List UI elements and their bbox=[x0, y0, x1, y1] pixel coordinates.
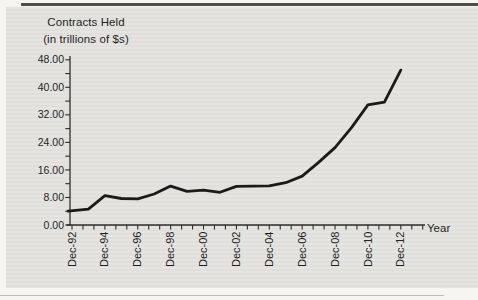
data-line-contracts-held bbox=[68, 70, 401, 211]
x-tick-label: Dec-02 bbox=[230, 232, 242, 267]
chart-canvas: 0.008.0016.0024.0032.0040.0048.00Dec-92D… bbox=[0, 0, 478, 300]
x-tick-label: Dec-08 bbox=[329, 232, 341, 267]
x-tick-label: Dec-94 bbox=[98, 232, 110, 267]
y-tick-label: 32.00 bbox=[38, 108, 64, 120]
x-tick-label: Dec-92 bbox=[66, 232, 78, 267]
x-tick-label: Dec-10 bbox=[362, 232, 374, 267]
x-axis-title: Year bbox=[427, 222, 450, 234]
x-tick-label: Dec-96 bbox=[131, 232, 143, 267]
y-tick-label: 16.00 bbox=[38, 164, 64, 176]
scan-artifact-line bbox=[0, 295, 444, 297]
y-tick-label: 8.00 bbox=[44, 191, 65, 203]
x-tick-label: Dec-04 bbox=[263, 232, 275, 267]
y-tick-label: 40.00 bbox=[38, 81, 64, 93]
y-tick-label: 24.00 bbox=[38, 136, 64, 148]
x-tick-label: Dec-06 bbox=[296, 232, 308, 267]
y-tick-label: 48.00 bbox=[38, 53, 64, 65]
x-tick-label: Dec-00 bbox=[197, 232, 209, 267]
y-tick-label: 0.00 bbox=[44, 219, 65, 231]
x-tick-label: Dec-12 bbox=[394, 232, 406, 267]
scanned-figure-page: Contracts Held (in trillions of $s) 0.00… bbox=[0, 0, 478, 300]
x-tick-label: Dec-98 bbox=[164, 232, 176, 267]
